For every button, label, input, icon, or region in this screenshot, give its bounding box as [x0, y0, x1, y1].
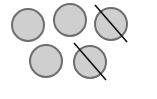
circle-icon	[12, 9, 44, 41]
circles-diagram	[0, 0, 157, 99]
circle-icon	[30, 45, 62, 77]
circle-icon	[54, 4, 86, 36]
circles-group	[12, 4, 127, 78]
